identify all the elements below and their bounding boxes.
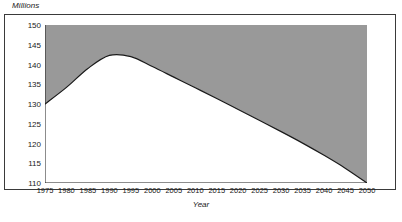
y-axis-tick-labels: 110115120125130135140145150 (18, 25, 41, 183)
y-tick-label: 135 (28, 80, 41, 89)
x-axis-tick-labels: 1975198019851990199520002005201020152020… (45, 186, 367, 198)
x-tick-label: 2000 (144, 186, 161, 195)
x-tick-label: 2040 (316, 186, 333, 195)
x-axis-title: Year (0, 200, 402, 209)
x-tick-label: 1995 (123, 186, 140, 195)
x-tick-label: 2035 (294, 186, 311, 195)
x-tick-label: 1975 (37, 186, 54, 195)
area-fill (45, 25, 367, 183)
y-tick-label: 115 (28, 159, 41, 168)
x-tick-label: 2010 (187, 186, 204, 195)
x-tick-label: 2020 (230, 186, 247, 195)
x-tick-label: 2045 (337, 186, 354, 195)
y-tick-label: 145 (28, 40, 41, 49)
y-axis-title: Millions (12, 1, 39, 10)
x-tick-label: 1980 (58, 186, 75, 195)
y-tick-label: 150 (28, 21, 41, 30)
x-tick-label: 1990 (101, 186, 118, 195)
y-tick-label: 130 (28, 100, 41, 109)
x-tick-label: 2050 (359, 186, 376, 195)
y-tick-label: 140 (28, 60, 41, 69)
x-tick-label: 2025 (251, 186, 268, 195)
x-tick-label: 2005 (165, 186, 182, 195)
x-tick-label: 1985 (80, 186, 97, 195)
y-tick-label: 120 (28, 139, 41, 148)
x-tick-label: 2030 (273, 186, 290, 195)
chart-svg (45, 25, 367, 183)
x-tick-label: 2015 (208, 186, 225, 195)
plot-area (45, 25, 367, 183)
chart-figure: Millions 110115120125130135140145150 197… (0, 0, 402, 222)
y-tick-label: 125 (28, 119, 41, 128)
